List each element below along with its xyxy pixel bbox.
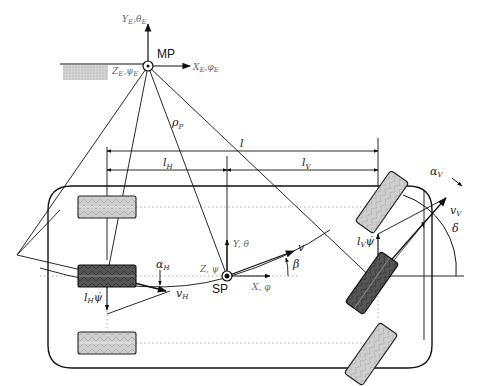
mp-label: MP <box>157 47 175 61</box>
vehicle-kinematics-diagram: YE,θE MP XE,φE ZE,ψE ρP l lH lV Y, θ Z, … <box>0 0 480 386</box>
radius-lines <box>17 66 377 283</box>
earth-x-label: XE,φE <box>192 62 219 74</box>
velocity-v-label: v <box>298 241 305 254</box>
wheel-front-right <box>344 322 398 385</box>
sp-label: SP <box>212 282 228 296</box>
wheel-rear-left <box>78 196 136 218</box>
front-yaw-velocity-label: lVψ̇ <box>357 235 375 249</box>
earth-z-label: ZE,ψE <box>111 66 138 78</box>
alpha-front-label: αV <box>430 165 443 179</box>
rear-yaw-velocity-label: lHψ̇ <box>84 291 103 305</box>
wheel-rear-center <box>78 265 136 287</box>
vehicle-x-label: X, φ <box>251 282 271 292</box>
v-rear-label: vH <box>176 287 189 301</box>
v-front-label: vV <box>450 204 462 218</box>
front-distance-label: lV <box>302 156 312 171</box>
wheel-rear-right <box>78 332 136 354</box>
beta-label: β <box>292 258 299 271</box>
wheelbase-label: l <box>240 137 244 150</box>
dimension-lines <box>107 138 378 272</box>
rear-distance-label: lH <box>163 156 174 171</box>
vehicle-z-label: Z, ψ <box>199 264 220 274</box>
wheel-front-left <box>355 170 409 233</box>
delta-label: δ <box>452 222 459 235</box>
alpha-rear-label: αH <box>156 258 170 272</box>
earth-y-label: YE,θE <box>122 14 147 26</box>
radius-label: ρP <box>171 116 183 131</box>
vehicle-y-label: Y, θ <box>233 239 250 249</box>
